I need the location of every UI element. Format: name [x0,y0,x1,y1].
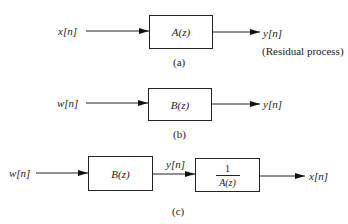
output-label-c: x[n] [309,170,328,182]
intermediate-label-c: y[n] [166,158,185,170]
output-label-a: y[n] [263,27,282,39]
fraction-bar [216,175,240,176]
output-label-b: y[n] [263,98,282,110]
block-B-label: B(z) [171,99,189,111]
output-note-a: (Residual process) [262,45,344,57]
fraction-numerator: 1 [225,163,230,174]
block-inverse-A: 1 A(z) [195,158,260,192]
fraction-denominator: A(z) [219,177,236,188]
block-B-c: B(z) [88,156,153,191]
fraction: 1 A(z) [216,163,240,188]
caption-c: (c) [172,205,184,217]
input-label-a: x[n] [58,25,77,37]
caption-a: (a) [173,56,185,68]
block-B-c-label: B(z) [111,168,129,180]
input-label-c: w[n] [9,167,30,179]
block-A-label: A(z) [172,26,190,38]
input-label-b: w[n] [57,97,78,109]
block-B: B(z) [148,88,212,121]
caption-b: (b) [173,128,186,140]
block-A: A(z) [149,15,213,49]
